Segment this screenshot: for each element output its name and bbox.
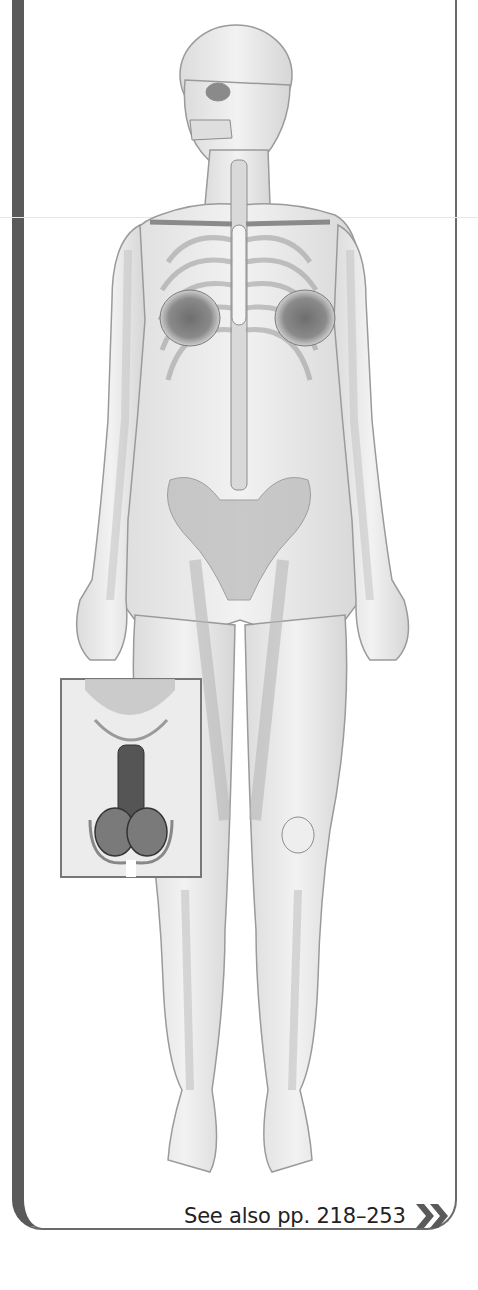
anatomy-illustration	[0, 0, 478, 1290]
double-chevron-right-icon	[414, 1202, 450, 1230]
see-also-link[interactable]: See also pp. 218–253	[184, 1200, 450, 1232]
inset-male-reproductive	[61, 679, 201, 877]
see-also-label: See also pp. 218–253	[184, 1204, 406, 1228]
